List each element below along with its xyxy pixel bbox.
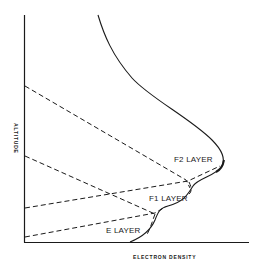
ray-f2-incident	[25, 86, 190, 188]
ray-f2-return	[25, 166, 220, 208]
x-axis-label: ELECTRON DENSITY	[133, 254, 196, 260]
y-axis-label: ALTITUDE	[13, 123, 19, 154]
f2-layer-label: F2 LAYER	[174, 155, 213, 164]
e-layer-label: E LAYER	[106, 226, 141, 235]
ray-f1-incident	[25, 156, 155, 214]
ray-e-return	[25, 207, 165, 237]
ionosphere-diagram: F2 LAYER F1 LAYER E LAYER ELECTRON DENSI…	[0, 0, 258, 263]
ray-e-link	[146, 214, 155, 236]
diagram-canvas	[0, 0, 258, 263]
electron-density-curve	[98, 15, 224, 242]
f1-layer-label: F1 LAYER	[149, 194, 188, 203]
